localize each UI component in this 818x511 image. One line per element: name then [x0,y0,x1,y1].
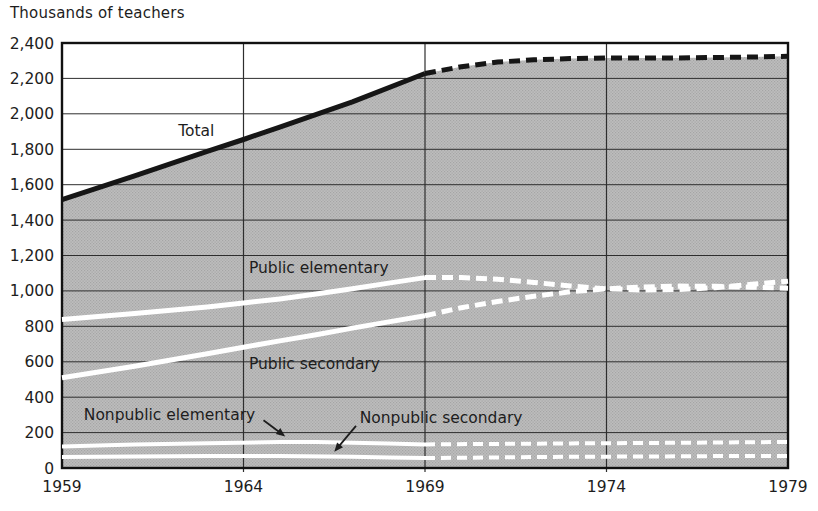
x-axis-tick-label-1969: 1969 [405,478,444,496]
series-label-nonpublic-elementary: Nonpublic elementary [84,406,255,424]
teachers-chart: Thousands of teachers TotalPublic elemen… [0,0,818,511]
x-axis-tick-label-1964: 1964 [224,478,263,496]
x-axis-tick-label-1974: 1974 [587,478,626,496]
y-axis-tick-label-2000: 2,000 [10,105,54,123]
y-axis-tick-label-1400: 1,400 [10,212,54,230]
y-axis-tick-label-1000: 1,000 [10,282,54,300]
chart-svg: TotalPublic elementaryPublic secondaryNo… [0,0,818,511]
y-axis-tick-label-200: 200 [24,424,54,442]
series-nonpublic-secondary-projected-line [425,456,788,458]
y-axis-tick-label-2400: 2,400 [10,35,54,53]
x-axis-tick-label-1979: 1979 [768,478,807,496]
series-label-public-secondary: Public secondary [249,355,380,373]
series-label-nonpublic-secondary: Nonpublic secondary [360,409,523,427]
y-axis-tick-label-400: 400 [24,389,54,407]
series-nonpublic-secondary-actual-line [62,456,425,458]
y-axis-tick-label-0: 0 [44,460,54,478]
y-axis-tick-label-1200: 1,200 [10,247,54,265]
x-axis-tick-label-1959: 1959 [42,478,81,496]
y-axis-tick-label-800: 800 [24,318,54,336]
series-label-total: Total [177,122,214,140]
y-axis-tick-label-1600: 1,600 [10,176,54,194]
y-axis-tick-label-1800: 1,800 [10,141,54,159]
y-axis-tick-label-600: 600 [24,353,54,371]
y-axis-tick-label-2200: 2,200 [10,70,54,88]
series-label-public-elementary: Public elementary [249,259,389,277]
series-nonpublic-elementary-projected-line [425,442,788,444]
